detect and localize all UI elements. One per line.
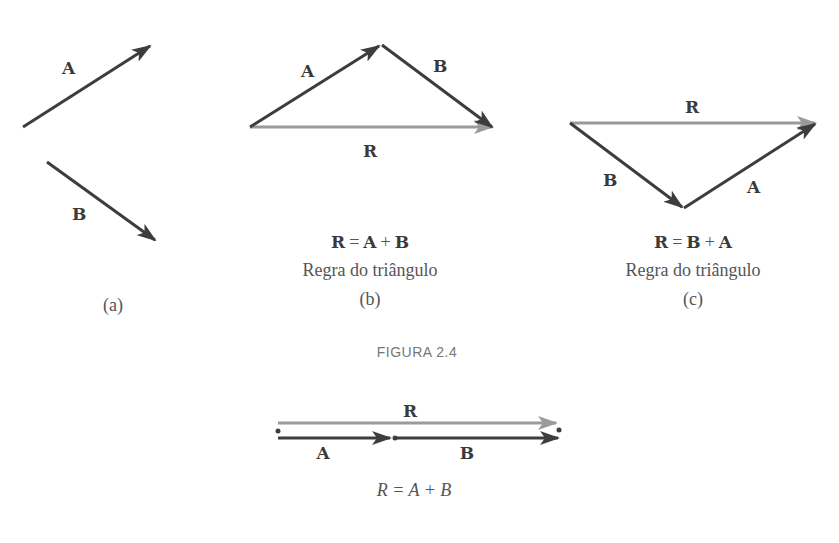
vector-addition-diagram: A B (a) A B R R = A + B Regra do triângu… [0,0,839,543]
collinear-panel: R A B R = A + B [276,401,562,500]
eq-lhs: R [331,232,346,252]
start-point [276,429,281,434]
label-a: A [315,443,330,463]
eq-plus: + [380,232,390,252]
caption-b: (b) [360,289,381,310]
label-b: B [433,56,447,76]
mid-point [393,436,398,441]
eq-term1: B [686,232,700,252]
eq-equals: = [349,232,359,252]
end-point [557,428,562,433]
vector-a-arrow [23,46,150,127]
equation-c: R = B + A [654,232,733,252]
label-b: B [460,443,474,463]
eq-term2: A [718,232,733,252]
label-r: R [403,401,418,421]
label-r: R [363,141,378,161]
rule-c: Regra do triângulo [626,260,761,280]
caption-c: (c) [683,289,703,310]
vector-b-arrow [570,123,682,207]
rule-b: Regra do triângulo [303,260,438,280]
panel-a: A B (a) [23,46,155,316]
eq-term1: A [362,232,377,252]
label-b: B [603,170,617,190]
label-b: B [72,204,86,224]
figure-title: FIGURA 2.4 [377,344,457,360]
eq-lhs: R [654,232,669,252]
vector-a-arrow [250,46,379,127]
collinear-equation: R = A + B [376,480,452,500]
equation-b: R = A + B [331,232,409,252]
label-r: R [685,97,700,117]
panel-c: R B A R = B + A Regra do triângulo (c) [570,97,815,310]
label-a: A [746,177,761,197]
eq-term2: B [395,232,409,252]
label-a: A [300,61,315,81]
label-a: A [61,58,76,78]
vector-b-arrow [47,162,155,240]
eq-plus: + [705,232,715,252]
panel-b: A B R R = A + B Regra do triângulo (b) [250,45,492,310]
caption-a: (a) [103,295,123,316]
eq-equals: = [672,232,682,252]
